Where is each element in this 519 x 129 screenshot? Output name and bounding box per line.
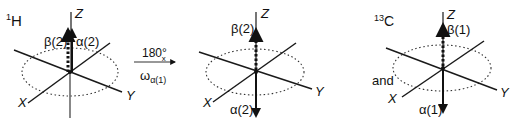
x-axis-label: X [17,95,28,110]
panel-13c: 13C Z β(1) α(1) X Y [374,7,510,117]
z-axis-label: Z [260,6,270,21]
alpha-label: α(2) [230,102,253,117]
origin-dot [254,70,258,74]
z-axis-label: Z [446,7,456,22]
y-axis-label: Y [500,85,510,100]
panel-after-pulse: Z β(2) α(2) X Y [199,6,325,117]
nucleus-label: 1H [6,12,22,29]
spin-vector-diagram: 1H Z β(2) α(2) X Y 180°x ωα(1) [0,0,519,129]
y-axis-label: Y [315,84,325,99]
y-axis-label: Y [126,88,136,103]
alpha-label: α(2) [76,34,99,49]
pulse-label: 180°x [142,46,167,63]
z-axis-label: Z [74,6,84,21]
origin-dot [441,66,445,70]
beta-label: β(2) [44,34,67,49]
x-axis-label: X [202,95,213,110]
frequency-label: ωα(1) [140,68,166,85]
panel-1h: 1H Z β(2) α(2) X Y [6,6,136,118]
beta-label: β(1) [447,22,470,37]
conjunction-label: and [372,73,394,88]
alpha-label: α(1) [419,102,442,117]
nucleus-label: 13C [374,13,394,29]
x-axis-label: X [387,91,398,106]
beta-label: β(2) [231,21,254,36]
pulse-transition: 180°x ωα(1) [134,46,175,85]
origin-dot [68,70,72,74]
